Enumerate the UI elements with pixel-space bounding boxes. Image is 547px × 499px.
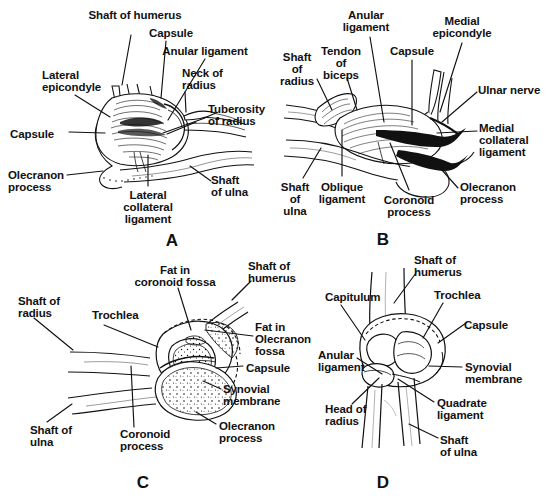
label-a-shaft-of-ulna: Shaft of ulna xyxy=(211,175,248,199)
label-c-trochlea: Trochlea xyxy=(92,310,139,322)
leader-line-d-2 xyxy=(423,303,443,338)
label-b-shaft-of-radius: Shaft of radius xyxy=(280,52,314,87)
label-b-coronoid-process: Coronoid process xyxy=(384,195,434,219)
label-d-head-of-radius: Head of radius xyxy=(325,404,366,428)
label-a-lateral-collateral-ligament: Lateral collateral ligament xyxy=(123,190,173,225)
label-c-olecranon-process: Olecranon process xyxy=(219,421,275,445)
label-a-lateral-epicondyle: Lateral epicondyle xyxy=(42,70,101,94)
label-c-shaft-of-ulna: Shaft of ulna xyxy=(30,425,72,449)
leader-line-c-7 xyxy=(196,412,216,424)
label-c-synovial-membrane: Synovial membrane xyxy=(223,384,280,408)
leader-line-c-5 xyxy=(216,366,243,368)
leader-line-a-3 xyxy=(185,92,186,112)
leader-lines xyxy=(34,35,477,438)
label-a-olecranon-process: Olecranon process xyxy=(8,170,64,194)
label-c-shaft-of-radius: Shaft of radius xyxy=(18,296,60,320)
leader-line-b-7 xyxy=(441,169,458,188)
label-b-medial-collateral-ligament: Medial collateral ligament xyxy=(479,123,529,158)
leader-line-b-4 xyxy=(317,79,332,110)
leader-line-a-4 xyxy=(163,118,205,133)
label-b-oblique-ligament: Oblique ligament xyxy=(319,182,366,206)
leader-line-b-0 xyxy=(370,37,384,122)
leader-line-b-1 xyxy=(440,43,462,112)
label-c-capsule: Capsule xyxy=(246,363,290,375)
leader-line-a-8 xyxy=(67,171,103,175)
panel-letter-a: A xyxy=(166,231,178,251)
label-d-shaft-of-humerus: Shaft of humerus xyxy=(414,255,462,279)
label-b-ulnar-nerve: Ulnar nerve xyxy=(478,85,540,97)
label-a-capsule-left: Capsule xyxy=(10,129,54,141)
label-b-capsule: Capsule xyxy=(390,46,434,58)
label-c-fat-in-olecranon-fossa: Fat in Olecranon fossa xyxy=(255,322,311,357)
label-d-capsule: Capsule xyxy=(464,320,508,332)
panel-letter-d: D xyxy=(377,473,389,493)
elbow-joint-figure: Shaft of humerusCapsuleAnular ligamentNe… xyxy=(0,0,547,499)
panel-letter-c: C xyxy=(137,473,149,493)
label-d-quadrate-ligament: Quadrate ligament xyxy=(437,398,487,422)
leader-line-c-4 xyxy=(205,330,253,336)
leader-line-b-10 xyxy=(390,143,409,190)
leader-line-b-6 xyxy=(437,131,477,133)
leader-line-d-6 xyxy=(398,379,434,402)
label-a-neck-of-radius: Neck of radius xyxy=(182,68,223,92)
leader-line-c-0 xyxy=(178,288,191,330)
label-c-fat-in-coronoid-fossa: Fat in coronoid fossa xyxy=(134,265,215,289)
leader-line-b-2 xyxy=(347,78,357,110)
label-a-shaft-of-humerus: Shaft of humerus xyxy=(89,10,182,22)
label-d-anular-ligament: Anular ligament xyxy=(318,350,365,374)
leader-line-c-2 xyxy=(34,318,73,350)
leader-line-a-7 xyxy=(69,132,105,133)
label-d-capitulum: Capitulum xyxy=(325,292,380,304)
label-c-coronoid-process: Coronoid process xyxy=(120,429,170,453)
leader-line-d-1 xyxy=(341,305,365,340)
leader-line-a-0 xyxy=(122,35,131,85)
panel-a-artwork xyxy=(95,84,254,189)
leader-line-c-3 xyxy=(104,325,158,347)
label-b-anular-ligament: Anular ligament xyxy=(343,10,390,34)
leader-line-b-8 xyxy=(303,148,321,178)
leader-line-c-9 xyxy=(131,366,134,427)
label-d-synovial-membrane: Synovial membrane xyxy=(465,362,522,386)
label-b-shaft-of-ulna: Shaft of ulna xyxy=(281,182,309,217)
label-b-olecranon-process: Olecranon process xyxy=(460,182,516,206)
panel-letter-b: B xyxy=(377,230,389,250)
label-d-trochlea: Trochlea xyxy=(434,290,481,302)
leader-line-d-0 xyxy=(394,273,416,303)
label-c-shaft-of-humerus: Shaft of humerus xyxy=(248,261,296,285)
leader-line-a-5 xyxy=(167,122,196,134)
leader-line-c-8 xyxy=(47,404,72,422)
label-a-anular-ligament: Anular ligament xyxy=(162,46,247,58)
label-d-shaft-of-ulna: Shaft of ulna xyxy=(440,435,477,459)
leader-line-a-6 xyxy=(75,95,110,117)
panel-b-artwork xyxy=(284,70,474,197)
leader-line-d-7 xyxy=(352,378,379,404)
leader-line-d-3 xyxy=(438,323,466,343)
leader-line-a-10 xyxy=(190,166,211,181)
label-b-tendon-of-biceps: Tendon of biceps xyxy=(321,46,361,81)
leader-line-d-5 xyxy=(429,366,462,367)
label-a-tuberosity-of-radius: Tuberosity of radius xyxy=(208,104,265,128)
label-a-capsule-top: Capsule xyxy=(149,28,193,40)
leader-line-c-6 xyxy=(203,381,221,389)
leader-line-d-8 xyxy=(409,424,438,438)
label-b-medial-epicondyle: Medial epicondyle xyxy=(432,16,491,40)
leader-line-b-5 xyxy=(442,92,477,122)
